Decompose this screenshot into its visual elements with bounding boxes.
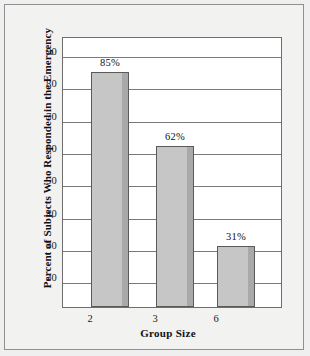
bar-side-shading bbox=[122, 72, 129, 307]
bar-group-3[interactable]: 62% bbox=[156, 146, 194, 307]
bar-value-label-3: 62% bbox=[165, 131, 185, 142]
x-tick-group-2: 2 bbox=[71, 313, 109, 324]
x-tick-group-6: 6 bbox=[197, 313, 235, 324]
x-tick-group-3: 3 bbox=[136, 313, 174, 324]
bar-group-2[interactable]: 85% bbox=[91, 72, 129, 307]
plot-area: 85% 62% 31% bbox=[62, 37, 282, 308]
figure: Percent of Subjects Who Responded in the… bbox=[0, 0, 310, 356]
figure-frame: Percent of Subjects Who Responded in the… bbox=[4, 4, 304, 350]
y-axis-title: Percent of Subjects Who Responded in the… bbox=[41, 13, 53, 303]
bar-side-shading bbox=[248, 246, 255, 307]
gridline-90 bbox=[63, 57, 281, 58]
x-axis-title: Group Size bbox=[58, 327, 278, 339]
bar-value-label-6: 31% bbox=[226, 231, 246, 242]
bar-group-6[interactable]: 31% bbox=[217, 246, 255, 307]
bar-side-shading bbox=[187, 146, 194, 307]
bar-value-label-2: 85% bbox=[100, 57, 120, 68]
